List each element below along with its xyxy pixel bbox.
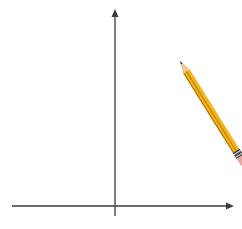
x-axis-arrow-icon: [226, 203, 234, 210]
parabola-diagram: [0, 0, 242, 229]
pencil-icon: [177, 59, 242, 167]
axes: [12, 9, 234, 216]
y-axis-arrow-icon: [112, 9, 119, 17]
